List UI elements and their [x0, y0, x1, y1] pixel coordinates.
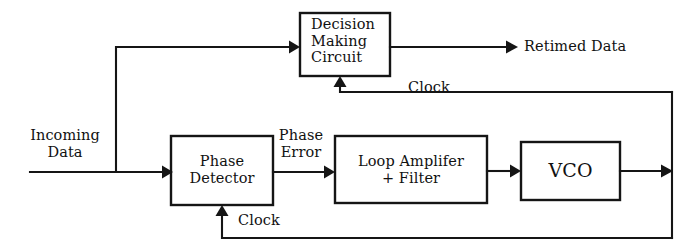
decision-label-line1: Decision: [311, 16, 375, 32]
decision-label-line2: Making: [311, 33, 367, 49]
incoming-data-label: IncomingData: [18, 127, 112, 160]
vco-label: VCO: [521, 160, 620, 182]
phase-error-label-line1: Phase: [279, 127, 323, 143]
phase-error-label-line2: Error: [281, 144, 322, 160]
filter-to-vco-arrowhead: [510, 165, 521, 178]
loop-amplifier-label-line2: + Filter: [382, 170, 440, 186]
block-diagram: DecisionMakingCircuit PhaseDetector Loop…: [0, 0, 693, 249]
loop-amplifier-filter-label: Loop Amplifer+ Filter: [335, 153, 487, 186]
decision-label-line3: Circuit: [311, 49, 362, 65]
phase-detector-label: PhaseDetector: [171, 153, 273, 186]
clock-to-decision-arrowhead: [334, 76, 347, 87]
incoming-data-label-line2: Data: [47, 144, 82, 160]
retimed-data-arrowhead: [506, 41, 518, 54]
retimed-data-label: Retimed Data: [524, 38, 654, 55]
phase-detector-label-line2: Detector: [189, 170, 254, 186]
data-branch-arrowhead: [289, 41, 300, 54]
clock-bottom-label: Clock: [238, 212, 298, 229]
clock-to-decision-wire: [340, 87, 672, 92]
phase-error-arrowhead: [324, 166, 335, 179]
clock-top-label: Clock: [408, 79, 468, 96]
phase-error-label: PhaseError: [272, 127, 330, 160]
clock-to-phase-detector-arrowhead: [216, 205, 229, 216]
loop-amplifier-label-line1: Loop Amplifer: [358, 153, 464, 169]
decision-making-circuit-label: DecisionMakingCircuit: [311, 16, 389, 66]
incoming-data-label-line1: Incoming: [30, 127, 100, 143]
phase-detector-label-line1: Phase: [200, 153, 244, 169]
